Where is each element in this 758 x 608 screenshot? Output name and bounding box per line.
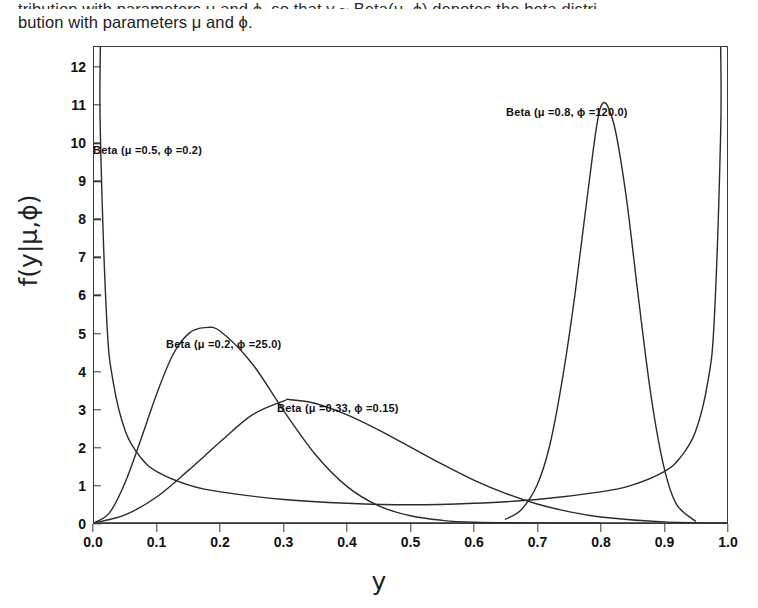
x-tick-mark xyxy=(600,524,601,532)
x-tick-mark xyxy=(92,524,93,532)
x-tick-label: 0.9 xyxy=(640,534,690,550)
x-tick-label: 0.3 xyxy=(259,534,309,550)
y-tick-label: 9 xyxy=(60,173,86,189)
y-tick-mark xyxy=(93,485,101,486)
y-tick-mark xyxy=(93,333,101,334)
x-tick-mark xyxy=(410,524,411,532)
curve-annotation: Beta (μ =0.33, ϕ =0.15) xyxy=(277,402,399,414)
y-tick-label: 5 xyxy=(60,326,86,342)
y-axis-title: f(y|μ,ϕ) xyxy=(14,151,43,331)
y-tick-mark xyxy=(93,181,101,182)
x-tick-label: 1.0 xyxy=(703,534,753,550)
body-text-line: bution with parameters μ and ϕ. xyxy=(18,11,740,33)
x-tick-label: 0.7 xyxy=(513,534,563,550)
x-tick-label: 0.0 xyxy=(68,534,118,550)
y-tick-label: 4 xyxy=(60,364,86,380)
x-tick-label: 0.2 xyxy=(195,534,245,550)
x-tick-mark xyxy=(664,524,665,532)
x-tick-mark xyxy=(473,524,474,532)
y-tick-label: 1 xyxy=(60,478,86,494)
y-tick-label: 10 xyxy=(60,135,86,151)
y-tick-mark xyxy=(93,66,101,67)
x-tick-mark xyxy=(727,524,728,532)
x-tick-mark xyxy=(219,524,220,532)
y-tick-mark xyxy=(93,371,101,372)
page-text-block: tribution with parameters μ and ϕ, so th… xyxy=(18,0,740,33)
curve-annotation: Beta (μ =0.5, ϕ =0.2) xyxy=(93,144,202,156)
curves-svg xyxy=(94,47,727,523)
x-tick-label: 0.4 xyxy=(322,534,372,550)
y-tick-label: 6 xyxy=(60,287,86,303)
x-tick-label: 0.5 xyxy=(386,534,436,550)
x-tick-mark xyxy=(283,524,284,532)
y-axis-tick-labels: 0123456789101112 xyxy=(52,40,86,608)
y-tick-mark xyxy=(93,523,101,524)
y-tick-mark xyxy=(93,219,101,220)
curve-annotation: Beta (μ =0.2, ϕ =25.0) xyxy=(166,338,281,350)
y-tick-label: 0 xyxy=(60,516,86,532)
x-axis-title: y xyxy=(0,567,758,596)
clipped-text-line: tribution with parameters μ and ϕ, so th… xyxy=(18,0,740,9)
y-tick-mark xyxy=(93,295,101,296)
y-tick-mark xyxy=(93,104,101,105)
curve-annotation: Beta (μ =0.8, ϕ =120.0) xyxy=(506,106,628,118)
y-tick-mark xyxy=(93,409,101,410)
y-tick-label: 11 xyxy=(60,97,86,113)
beta-density-figure: 0123456789101112 f(y|μ,ϕ) y 0.00.10.20.3… xyxy=(0,40,758,608)
density-curve xyxy=(94,327,600,523)
y-tick-label: 7 xyxy=(60,249,86,265)
y-tick-mark xyxy=(93,447,101,448)
y-tick-label: 2 xyxy=(60,440,86,456)
density-curve xyxy=(505,103,695,522)
x-tick-mark xyxy=(156,524,157,532)
x-tick-mark xyxy=(346,524,347,532)
y-tick-label: 3 xyxy=(60,402,86,418)
y-tick-label: 12 xyxy=(60,59,86,75)
x-tick-label: 0.1 xyxy=(132,534,182,550)
x-tick-mark xyxy=(537,524,538,532)
x-tick-label: 0.6 xyxy=(449,534,499,550)
x-tick-label: 0.8 xyxy=(576,534,626,550)
y-tick-label: 8 xyxy=(60,211,86,227)
y-tick-mark xyxy=(93,257,101,258)
plot-area xyxy=(93,46,728,524)
